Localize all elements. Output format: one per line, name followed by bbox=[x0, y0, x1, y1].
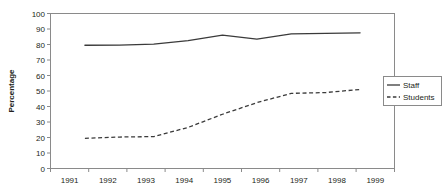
x-tick-label: 1993 bbox=[137, 176, 155, 185]
legend-label-students: Students bbox=[403, 93, 435, 102]
y-tick-label: 90 bbox=[36, 25, 45, 34]
y-tick-label: 60 bbox=[36, 72, 45, 81]
x-tick-label: 1991 bbox=[61, 176, 79, 185]
x-tick-label: 1994 bbox=[175, 176, 193, 185]
x-tick-label: 1997 bbox=[290, 176, 308, 185]
chart-screenshot: 100 90 80 70 60 50 40 30 20 10 0 bbox=[0, 0, 447, 196]
y-tick-label: 20 bbox=[36, 134, 45, 143]
x-tick-label: 1998 bbox=[328, 176, 346, 185]
y-tick-label: 30 bbox=[36, 118, 45, 127]
x-tick-label: 1995 bbox=[214, 176, 232, 185]
y-tick-label: 100 bbox=[32, 10, 46, 19]
y-tick-label: 80 bbox=[36, 41, 45, 50]
y-tick-label: 50 bbox=[36, 87, 45, 96]
y-tick-label: 10 bbox=[36, 149, 45, 158]
x-tick-label: 1996 bbox=[252, 176, 270, 185]
y-tick-label: 40 bbox=[36, 103, 45, 112]
y-tick-label: 0 bbox=[41, 165, 46, 174]
x-axis-tick-labels: 1991 1992 1993 1994 1995 1996 1997 1998 … bbox=[61, 176, 385, 185]
y-tick-label: 70 bbox=[36, 56, 45, 65]
chart-background bbox=[0, 0, 447, 196]
chart-legend: Staff Students bbox=[384, 77, 442, 106]
y-axis-title: Percentage bbox=[7, 69, 16, 113]
legend-label-staff: Staff bbox=[403, 81, 420, 90]
x-tick-label: 1992 bbox=[99, 176, 117, 185]
line-chart: 100 90 80 70 60 50 40 30 20 10 0 bbox=[0, 0, 447, 196]
x-tick-label: 1999 bbox=[366, 176, 384, 185]
